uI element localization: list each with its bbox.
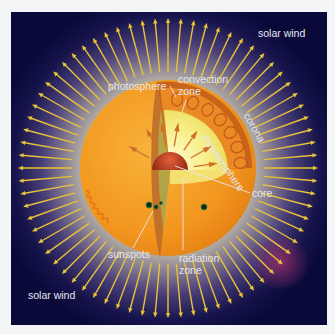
label-sunspots: sunspots — [108, 249, 150, 260]
label-radiation-zone-1: radiation — [179, 253, 219, 264]
label-radiation-zone-2: zone — [179, 265, 202, 276]
label-convection-zone-1: convection — [178, 74, 228, 85]
magnetic-glow — [246, 236, 310, 288]
sun-illustration — [0, 0, 335, 334]
sun-structure-diagram: solar wind photosphere convection zone c… — [0, 0, 335, 334]
label-photosphere: photosphere — [108, 81, 166, 92]
label-core: core — [252, 188, 272, 199]
label-solar-wind-top: solar wind — [258, 28, 305, 39]
label-solar-wind-bottom: solar wind — [28, 290, 75, 301]
label-convection-zone-2: zone — [178, 86, 201, 97]
